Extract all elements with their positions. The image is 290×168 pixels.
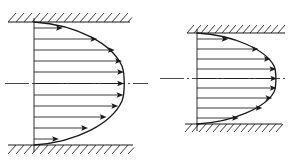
velocity-vector: [34, 47, 115, 53]
velocity-profile-figure: [0, 0, 290, 168]
narrow-bottom-wall-hatching: [185, 124, 283, 132]
velocity-vector: [34, 125, 88, 131]
velocity-vector: [197, 46, 259, 51]
velocity-vector: [197, 115, 239, 120]
wide-channel-group: [5, 13, 148, 154]
wide-top-wall-hatching: [8, 13, 132, 22]
wide-top-wall: [8, 13, 132, 22]
narrow-channel-group: [160, 25, 288, 132]
velocity-vector: [34, 114, 107, 120]
velocity-vector: [197, 85, 277, 90]
diagram-canvas: [0, 0, 290, 168]
velocity-vector: [197, 36, 228, 41]
velocity-vector: [34, 36, 97, 42]
velocity-vector: [197, 95, 272, 100]
wide-velocity-vectors: [34, 25, 124, 142]
velocity-vector: [34, 136, 59, 142]
narrow-top-wall-hatching: [187, 25, 285, 33]
velocity-vector: [34, 69, 124, 75]
narrow-top-wall: [187, 25, 285, 33]
velocity-vector: [34, 92, 123, 98]
narrow-velocity-vectors: [197, 36, 277, 120]
velocity-vector: [197, 66, 276, 71]
velocity-vector: [34, 81, 124, 87]
narrow-bottom-wall: [185, 124, 283, 132]
wide-bottom-wall-hatching: [8, 145, 134, 154]
velocity-vector: [197, 76, 277, 81]
wide-bottom-wall: [8, 145, 134, 154]
velocity-vector: [34, 103, 118, 109]
velocity-vector: [34, 58, 122, 64]
velocity-vector: [197, 56, 271, 61]
